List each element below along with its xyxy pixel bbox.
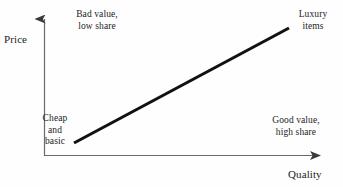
price-quality-matrix-diagram: Price Quality Bad value, low share Luxur… xyxy=(0,0,343,187)
quadrant-label-good-value-high-share: Good value, high share xyxy=(262,115,330,138)
y-axis-label-price: Price xyxy=(4,33,40,46)
quadrant-label-bad-value-low-share: Bad value, low share xyxy=(60,9,134,32)
quadrant-label-luxury-items: Luxury items xyxy=(288,9,338,32)
value-equivalence-trend-line xyxy=(74,28,289,143)
quadrant-label-cheap-and-basic: Cheap and basic xyxy=(33,113,77,148)
x-axis-label-quality: Quality xyxy=(288,168,340,181)
